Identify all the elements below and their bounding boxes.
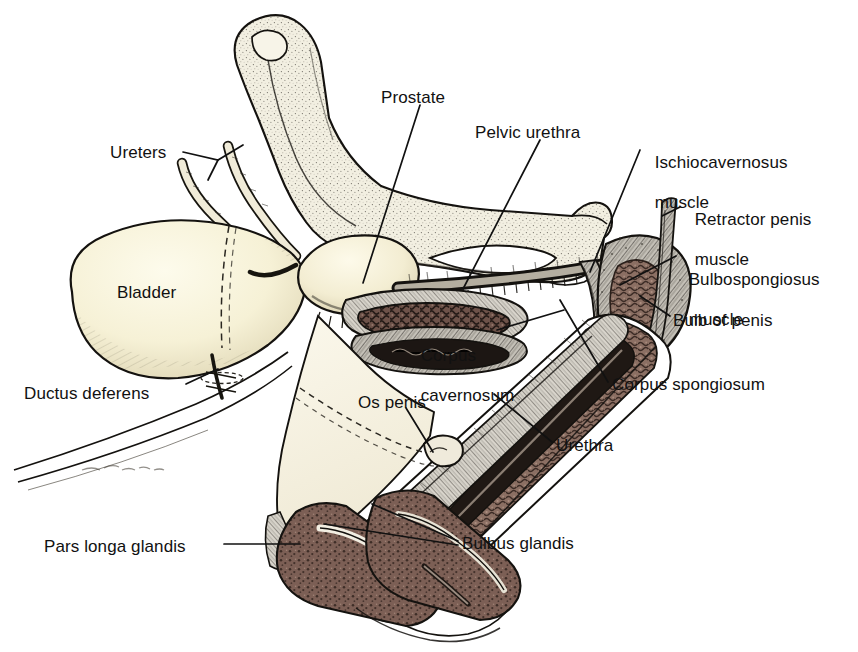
label-bladder: Bladder: [117, 283, 176, 303]
label-line-1: Bulbospongiosus: [689, 270, 820, 289]
label-prostate: Prostate: [381, 88, 445, 108]
label-line-1: Corpus: [421, 346, 476, 365]
label-pelvic-urethra: Pelvic urethra: [475, 123, 580, 143]
label-urethra: Urethra: [556, 436, 613, 456]
label-bulb-of-penis: Bulb of penis: [673, 311, 773, 331]
label-line-2: cavernosum: [421, 386, 515, 405]
label-bulbus-glandis: Bulbus glandis: [462, 534, 574, 554]
label-corpus-spongiosum: Corpus spongiosum: [612, 375, 765, 395]
label-ureters: Ureters: [110, 143, 166, 163]
label-ductus-deferens: Ductus deferens: [24, 384, 149, 404]
label-line-1: Ischiocavernosus: [655, 153, 788, 172]
label-line-1: Retractor penis: [695, 210, 812, 229]
label-corpus-cavernosum: Corpus cavernosum: [411, 326, 514, 406]
anatomical-figure: Ureters Prostate Pelvic urethra Ischioca…: [0, 0, 858, 652]
label-pars-longa-glandis: Pars longa glandis: [44, 537, 186, 557]
label-os-penis: Os penis: [358, 393, 426, 413]
